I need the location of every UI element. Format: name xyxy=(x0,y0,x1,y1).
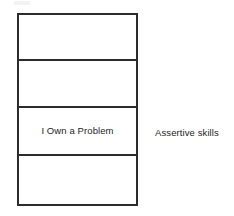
scan-artifact-speck xyxy=(14,1,30,5)
diagram-root: I Own a Problem Assertive skills xyxy=(0,0,234,216)
stack-row-i-own-a-problem: I Own a Problem xyxy=(19,108,136,156)
stack-row xyxy=(19,61,136,108)
four-row-stack: I Own a Problem xyxy=(17,13,138,206)
stack-row xyxy=(19,156,136,204)
assertive-skills-label: Assertive skills xyxy=(155,128,219,138)
stack-row xyxy=(19,15,136,61)
stack-row-label: I Own a Problem xyxy=(41,126,113,136)
